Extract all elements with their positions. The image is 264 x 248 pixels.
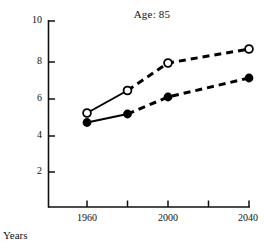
chart-figure: Age: 85 10	[0, 0, 264, 248]
y-axis-tick-label-6: 6	[20, 92, 42, 103]
filled-series-dashed-segment	[128, 78, 250, 114]
open-marker-1980	[124, 87, 132, 95]
filled-marker-2000	[164, 93, 173, 102]
filled-series-solid-segment	[87, 114, 128, 123]
y-axis-tick-label-4: 4	[20, 129, 42, 140]
open-series-dashed-segment	[128, 49, 250, 91]
open-marker-2040	[245, 45, 253, 53]
open-series-solid-segment	[87, 91, 128, 114]
y-axis-tick-label-10: 10	[20, 14, 42, 25]
open-marker-1960	[83, 109, 91, 117]
x-axis-tick-label-1960: 1960	[67, 212, 107, 223]
filled-marker-1980	[123, 110, 132, 119]
filled-marker-2040	[245, 74, 254, 83]
open-marker-2000	[164, 59, 172, 67]
chart-plot-area	[0, 0, 264, 248]
x-axis-label: Years	[3, 229, 28, 241]
x-axis-tick-label-2040: 2040	[228, 212, 264, 223]
filled-marker-1960	[83, 118, 92, 127]
y-axis-tick-label-8: 8	[20, 55, 42, 66]
x-axis-tick-label-2000: 2000	[148, 212, 188, 223]
y-axis-tick-label-2: 2	[20, 165, 42, 176]
